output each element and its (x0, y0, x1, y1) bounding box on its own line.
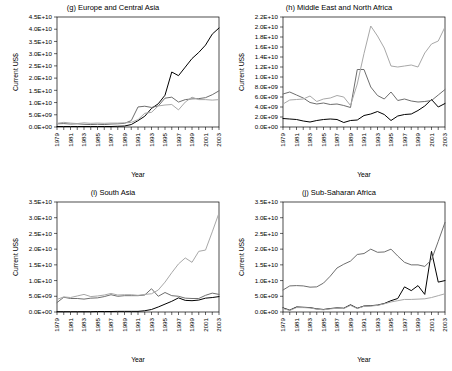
y-tick-label: 1.5E+10 (29, 87, 53, 94)
x-tick-label: 1981 (67, 132, 74, 146)
plot-frame (283, 17, 445, 127)
y-tick-label: 1.5E+10 (255, 261, 279, 268)
y-tick-label: 5.0E+09 (29, 292, 53, 299)
x-axis-title: Year (131, 171, 145, 178)
x-tick-label: 2001 (202, 132, 209, 146)
x-tick-label: 1999 (414, 317, 421, 331)
x-tick-label: 2001 (428, 132, 435, 146)
y-tick-label: 3.5E+10 (255, 198, 279, 205)
y-axis-title: Current US$ (238, 53, 245, 91)
x-tick-label: 1995 (161, 132, 168, 146)
x-tick-label: 1987 (333, 132, 340, 146)
x-tick-label: 1983 (306, 317, 313, 331)
plot-frame (283, 202, 445, 312)
x-axis-title: Year (357, 356, 371, 363)
y-tick-label: 4.5E+10 (29, 13, 53, 20)
series-dark-gray (283, 70, 445, 108)
x-tick-label: 2001 (428, 317, 435, 331)
y-tick-label: 0.0E+00 (29, 308, 53, 315)
y-tick-label: 6.0E+09 (255, 93, 279, 100)
plot-svg-h: 0.0E+002.0E+094.0E+096.0E+098.0E+091.0E+… (226, 0, 452, 186)
x-tick-label: 1993 (374, 132, 381, 146)
x-tick-label: 1993 (148, 317, 155, 331)
x-tick-label: 1989 (121, 132, 128, 146)
y-tick-label: 2.5E+10 (29, 62, 53, 69)
x-tick-label: 1983 (80, 317, 87, 331)
y-tick-label: 3.5E+10 (29, 198, 53, 205)
x-tick-label: 1985 (320, 132, 327, 146)
y-tick-label: 1.4E+10 (255, 53, 279, 60)
y-tick-label: 2.0E+10 (255, 23, 279, 30)
x-tick-label: 1999 (188, 132, 195, 146)
x-tick-label: 1983 (80, 132, 87, 146)
x-tick-label: 1995 (161, 317, 168, 331)
y-tick-label: 0.0E+00 (29, 123, 53, 130)
x-tick-label: 1979 (53, 317, 60, 331)
x-tick-label: 1995 (387, 132, 394, 146)
x-tick-label: 1995 (387, 317, 394, 331)
y-tick-label: 5.0E+09 (255, 292, 279, 299)
series-dark-gray (283, 222, 445, 290)
figure-panel-grid: (g) Europe and Central Asia 0.0E+005.0E+… (0, 0, 452, 371)
y-tick-label: 1.0E+10 (29, 99, 53, 106)
x-tick-label: 1997 (401, 317, 408, 331)
series-light-gray (57, 97, 219, 123)
x-tick-label: 1989 (347, 317, 354, 331)
x-tick-label: 1989 (121, 317, 128, 331)
x-tick-label: 1999 (188, 317, 195, 331)
x-axis-title: Year (357, 171, 371, 178)
y-tick-label: 2.0E+09 (255, 113, 279, 120)
x-tick-label: 1981 (293, 317, 300, 331)
plot-svg-i: 0.0E+005.0E+091.0E+101.5E+102.0E+102.5E+… (0, 185, 226, 371)
chart-panel-g: (g) Europe and Central Asia 0.0E+005.0E+… (0, 0, 226, 186)
series-black (283, 251, 445, 310)
x-tick-label: 2003 (441, 317, 448, 331)
y-tick-label: 2.0E+10 (29, 245, 53, 252)
x-tick-label: 1981 (67, 317, 74, 331)
x-tick-label: 1993 (148, 132, 155, 146)
y-tick-label: 2.2E+10 (255, 13, 279, 20)
y-tick-label: 3.0E+10 (255, 214, 279, 221)
chart-panel-i: (i) South Asia 0.0E+005.0E+091.0E+101.5E… (0, 185, 226, 371)
series-light-gray (57, 213, 219, 299)
y-axis-title: Current US$ (12, 238, 19, 276)
y-tick-label: 1.0E+10 (29, 277, 53, 284)
x-axis-title: Year (131, 356, 145, 363)
chart-panel-j: (j) Sub-Saharan Africa 0.0E+005.0E+091.0… (226, 185, 452, 371)
y-tick-label: 4.0E+09 (255, 103, 279, 110)
y-tick-label: 2.5E+10 (29, 230, 53, 237)
x-tick-label: 1979 (53, 132, 60, 146)
plot-frame (57, 17, 219, 127)
x-tick-label: 1991 (360, 132, 367, 146)
y-axis-title: Current US$ (238, 238, 245, 276)
y-tick-label: 8.0E+09 (255, 83, 279, 90)
x-tick-label: 1983 (306, 132, 313, 146)
x-tick-label: 1997 (401, 132, 408, 146)
y-tick-label: 2.5E+10 (255, 230, 279, 237)
x-tick-label: 1979 (279, 317, 286, 331)
x-tick-label: 1987 (107, 317, 114, 331)
x-tick-label: 1985 (94, 132, 101, 146)
x-tick-label: 1991 (134, 132, 141, 146)
plot-svg-g: 0.0E+005.0E+091.0E+101.5E+102.0E+102.5E+… (0, 0, 226, 186)
x-tick-label: 1979 (279, 132, 286, 146)
y-tick-label: 1.6E+10 (255, 43, 279, 50)
x-tick-label: 2003 (215, 132, 222, 146)
y-tick-label: 1.5E+10 (29, 261, 53, 268)
y-tick-label: 1.8E+10 (255, 33, 279, 40)
y-tick-label: 2.0E+10 (29, 74, 53, 81)
y-axis-title: Current US$ (12, 53, 19, 91)
x-tick-label: 1981 (293, 132, 300, 146)
x-tick-label: 1985 (94, 317, 101, 331)
x-tick-label: 1997 (175, 317, 182, 331)
x-tick-label: 2003 (441, 132, 448, 146)
chart-panel-h: (h) Middle East and North Africa 0.0E+00… (226, 0, 452, 186)
x-tick-label: 1997 (175, 132, 182, 146)
x-tick-label: 2003 (215, 317, 222, 331)
y-tick-label: 1.2E+10 (255, 63, 279, 70)
y-tick-label: 0.0E+00 (255, 308, 279, 315)
y-tick-label: 3.0E+10 (29, 214, 53, 221)
y-tick-label: 4.0E+10 (29, 25, 53, 32)
x-tick-label: 1999 (414, 132, 421, 146)
x-tick-label: 1993 (374, 317, 381, 331)
